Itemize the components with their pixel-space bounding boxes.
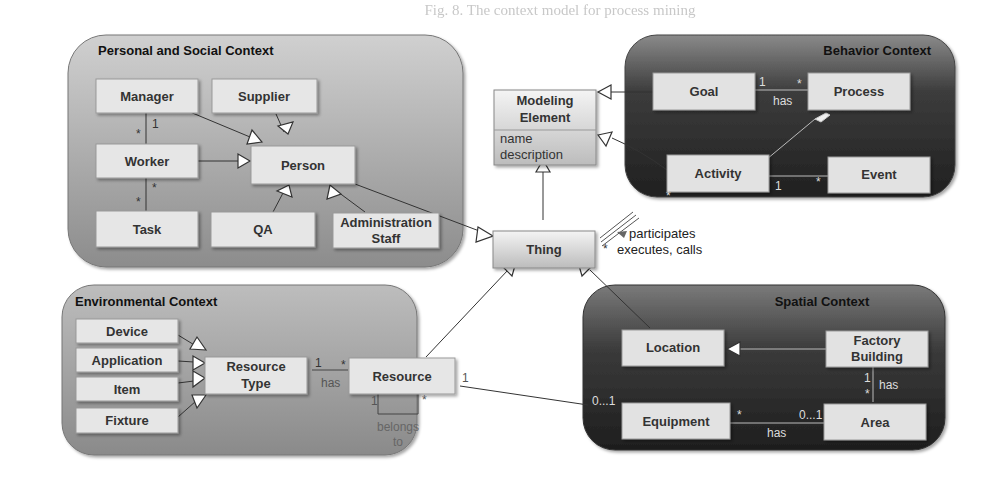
triangle-arrow-icon (598, 85, 611, 99)
class-fixture-label: Fixture (105, 413, 148, 428)
multiplicity-worker-task-worker: * (152, 181, 157, 195)
class-modeling-element-label-2: Element (520, 110, 571, 125)
class-task-label: Task (133, 222, 162, 237)
association-label-belongs-1: belongs (377, 420, 419, 434)
multiplicity-activity-event-activity: 1 (775, 179, 782, 193)
association-label-type-has-resource: has (321, 376, 340, 390)
multiplicity-worker-task-task: * (136, 195, 141, 209)
class-modeling-element-label-1: Modeling (516, 93, 573, 108)
direction-arrow-icon (617, 231, 627, 238)
multiplicity-activity-thing-activity: * (666, 189, 671, 203)
class-worker-label: Worker (125, 154, 170, 169)
association-label-executes-calls: executes, calls (617, 242, 703, 257)
association-label-participates: participates (629, 226, 696, 241)
association-label-equipment-has-area: has (767, 426, 786, 440)
context-model-diagram: Personal and Social Context Behavior Con… (0, 0, 998, 482)
multiplicity-resource-self-b: * (422, 393, 427, 407)
class-resource-type-label-1: Resource (226, 359, 285, 374)
triangle-arrow-icon (476, 227, 493, 242)
class-administration-staff-label-2: Staff (372, 231, 402, 246)
class-factory-building-label-2: Building (851, 349, 903, 364)
class-equipment-label: Equipment (642, 414, 710, 429)
attribute-name: name (500, 131, 533, 146)
personal-social-context-title: Personal and Social Context (98, 43, 274, 58)
association-label-goal-has-process: has (773, 94, 792, 108)
association-label-factory-has-area: has (879, 378, 898, 392)
multiplicity-thing-activity-thing: * (603, 242, 608, 256)
spatial-context-title: Spatial Context (775, 294, 870, 309)
multiplicity-activity-event-event: * (816, 175, 821, 189)
attribute-description: description (500, 147, 563, 162)
multiplicity-factory-area-factory: 1 (864, 371, 871, 385)
class-supplier-label: Supplier (238, 89, 290, 104)
class-qa-label: QA (253, 222, 273, 237)
multiplicity-type-resource-resource: * (341, 358, 346, 372)
class-event-label: Event (861, 167, 897, 182)
association-label-belongs-2: to (393, 435, 403, 449)
class-manager-label: Manager (120, 89, 173, 104)
multiplicity-manager-worker-star: * (136, 127, 141, 141)
class-process-label: Process (834, 84, 885, 99)
class-thing-label: Thing (526, 242, 561, 257)
multiplicity-manager-worker-1: 1 (152, 117, 159, 131)
class-factory-building-label-1: Factory (854, 333, 902, 348)
multiplicity-goal-process-goal: 1 (759, 75, 766, 89)
multiplicity-equipment-area-area: 0...1 (799, 408, 823, 422)
class-resource-label: Resource (372, 369, 431, 384)
class-administration-staff-label-1: Administration (340, 215, 432, 230)
multiplicity-resource-self-a: 1 (371, 394, 378, 408)
class-area-label: Area (861, 415, 891, 430)
class-goal-label: Goal (690, 84, 719, 99)
behavior-context-title: Behavior Context (823, 43, 931, 58)
triangle-arrow-icon (598, 132, 612, 146)
environmental-context-title: Environmental Context (75, 294, 218, 309)
class-activity-label: Activity (695, 166, 743, 181)
multiplicity-resource-equipment-equipment: 0...1 (592, 394, 616, 408)
multiplicity-type-resource-type: 1 (315, 356, 322, 370)
class-person-label: Person (281, 158, 325, 173)
class-item-label: Item (114, 382, 141, 397)
multiplicity-factory-area-area: * (865, 387, 870, 401)
class-resource-type-label-2: Type (241, 376, 270, 391)
multiplicity-goal-process-process: * (797, 77, 802, 91)
multiplicity-equipment-area-equipment: * (737, 408, 742, 422)
multiplicity-resource-equipment-resource: 1 (462, 371, 469, 385)
class-location-label: Location (646, 340, 700, 355)
class-device-label: Device (106, 324, 148, 339)
class-application-label: Application (92, 353, 163, 368)
